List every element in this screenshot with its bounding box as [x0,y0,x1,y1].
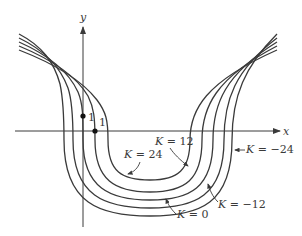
pointer-arrow-icon [128,162,140,174]
curve-label-k-12: K = −12 [208,184,266,211]
curve-label-text: K = 0 [176,208,208,221]
point-on-y-axis-label: 1 [88,111,95,124]
curve-label-k-24: K = −24 [235,143,294,156]
curve-label-text: K = 24 [123,148,162,161]
level-curve-k-neg12 [19,38,277,208]
point-on-y-axis [80,113,85,118]
level-curves-figure: x y 11 K = 24K = 12K = 0K = −12K = −24 [0,0,302,236]
y-axis-label: y [79,11,87,24]
level-curve-k-neg24 [19,34,277,216]
marked-points-group: 11 [80,111,106,134]
curve-label-k-24: K = 24 [123,148,162,174]
point-on-x-axis [92,128,97,133]
level-curve-k-0 [19,42,277,200]
point-on-x-axis-label: 1 [99,116,106,129]
curve-label-text: K = 12 [154,135,193,148]
curve-label-text: K = −24 [245,143,294,156]
level-curves-group [19,34,277,216]
curve-label-k-0: K = 0 [166,199,208,221]
x-axis-label: x [283,125,290,138]
diagram-canvas: x y 11 K = 24K = 12K = 0K = −12K = −24 [0,0,302,236]
curve-label-text: K = −12 [217,198,266,211]
